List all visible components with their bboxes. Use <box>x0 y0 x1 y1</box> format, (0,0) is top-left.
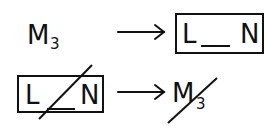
row1-target-right: N <box>240 21 259 47</box>
row2-source-box: L N <box>17 75 104 113</box>
row1-target-left: L <box>182 21 197 47</box>
row1-target-box: L N <box>175 13 264 54</box>
row2-target-symbol: M <box>172 80 194 106</box>
row2-target-subscript: 3 <box>196 97 206 112</box>
row2-source-right: N <box>80 82 99 108</box>
row1-arrow-icon <box>118 25 164 39</box>
row2-arrow-icon <box>118 85 164 99</box>
row2-source-left: L <box>25 82 40 108</box>
